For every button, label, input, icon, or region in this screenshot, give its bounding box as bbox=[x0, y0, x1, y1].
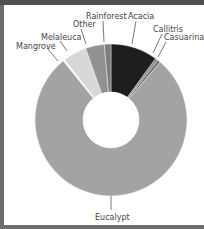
leader-acacia bbox=[132, 21, 136, 44]
leader-casuarina bbox=[158, 42, 166, 57]
label-melaleuca: Melaleuca bbox=[41, 33, 82, 42]
leader-callitris bbox=[153, 34, 162, 53]
label-acacia: Acacia bbox=[128, 12, 154, 21]
donut-hole bbox=[83, 92, 139, 148]
leader-rainforest bbox=[103, 21, 104, 42]
label-mangrove: Mangrove bbox=[16, 42, 56, 51]
label-eucalypt: Eucalypt bbox=[95, 213, 130, 222]
label-other: Other bbox=[73, 20, 96, 29]
leader-melaleuca bbox=[60, 41, 67, 51]
label-casuarina: Casuarina bbox=[164, 33, 204, 42]
leader-other bbox=[81, 29, 86, 44]
donut-chart: Rainforest Acacia Callitris Casuarina Ot… bbox=[0, 0, 204, 229]
